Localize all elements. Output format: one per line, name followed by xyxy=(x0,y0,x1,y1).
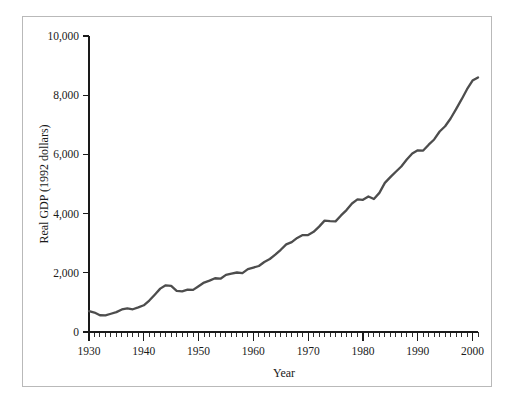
y-axis-ticks xyxy=(83,36,89,332)
y-tick-label-8000: 8,000 xyxy=(53,89,79,102)
x-tick-label-2000: 2000 xyxy=(461,345,484,357)
x-axis-group: 19301940195019601970198019902000 xyxy=(78,332,485,357)
y-axis-tick-labels: 02,0004,0006,0008,00010,000 xyxy=(47,30,79,338)
x-tick-label-1930: 1930 xyxy=(78,345,101,357)
y-tick-label-4000: 4,000 xyxy=(53,208,79,221)
x-tick-label-1960: 1960 xyxy=(242,345,265,357)
x-tick-label-1990: 1990 xyxy=(406,345,429,357)
y-axis-group: 02,0004,0006,0008,00010,000 xyxy=(47,30,89,338)
x-axis-minor-ticks xyxy=(94,332,478,337)
y-tick-label-2000: 2,000 xyxy=(53,267,79,280)
x-tick-label-1950: 1950 xyxy=(187,345,210,357)
x-tick-label-1980: 1980 xyxy=(351,345,374,357)
y-axis-label: Real GDP (1992 dollars) xyxy=(37,124,51,243)
x-tick-label-1970: 1970 xyxy=(297,345,320,357)
x-axis-tick-labels: 19301940195019601970198019902000 xyxy=(78,345,485,357)
x-tick-label-1940: 1940 xyxy=(132,345,155,357)
y-tick-label-0: 0 xyxy=(73,326,79,338)
y-tick-label-10000: 10,000 xyxy=(47,30,79,43)
chart-plot: 02,0004,0006,0008,00010,000 193019401950… xyxy=(0,0,514,409)
x-axis-label: Year xyxy=(273,366,295,380)
figure-canvas: 02,0004,0006,0008,00010,000 193019401950… xyxy=(0,0,514,409)
y-tick-label-6000: 6,000 xyxy=(53,148,79,161)
gdp-line-series xyxy=(89,77,478,315)
